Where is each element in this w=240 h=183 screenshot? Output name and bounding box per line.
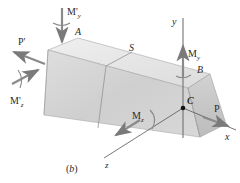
force-p-prime-arrow [14,52,45,64]
label-c: C [187,95,194,106]
label-p-prime: P' [18,36,26,47]
label-my-prime: M'y [67,6,82,20]
centroid-point [181,106,186,111]
beam-diagram: A S B C y x z P P' My Mz M'y M'z (b) [0,0,240,183]
figure-caption: (b) [66,163,78,175]
label-my: My [188,48,201,62]
label-p: P [214,103,220,114]
label-b: B [197,64,203,75]
label-z-axis: z [104,160,109,170]
label-y-axis: y [171,16,177,27]
label-s: S [129,42,134,53]
label-x-axis: x [224,131,230,142]
moment-mz-prime-arrow [12,70,38,84]
label-mz-prime: M'z [10,95,24,109]
label-a: A [74,26,82,37]
